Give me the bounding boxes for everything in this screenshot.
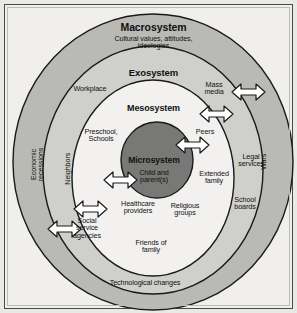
label-preschool-schools: Preschool, Schools (76, 128, 126, 143)
label-workplace: Workplace (59, 85, 121, 92)
label-economic-recessions: Economic recessions (30, 133, 45, 195)
exosystem-label: Exosystem (10, 68, 297, 78)
label-religious-groups: Religious groups (162, 202, 208, 217)
microsystem-sublabel: Child and parent(s) (111, 169, 197, 184)
label-wars: Wars (260, 136, 267, 188)
label-social-service-agencies: Social service agencies (64, 217, 110, 239)
microsystem-label: Microsystem (108, 156, 200, 165)
figure-frame: Macrosystem Cultural values, attitudes, … (4, 4, 293, 309)
diagram-stage: Macrosystem Cultural values, attitudes, … (10, 10, 297, 313)
label-friends-of-family: Friends of family (115, 239, 187, 254)
macrosystem-sublabel: Cultural values, attitudes, ideologies (10, 35, 297, 50)
ecological-systems-figure: Macrosystem Cultural values, attitudes, … (0, 0, 297, 313)
label-mass-media: Mass media (196, 81, 232, 96)
mesosystem-label: Mesosystem (10, 104, 297, 113)
macrosystem-label: Macrosystem (10, 22, 297, 33)
label-school-boards: School boards (224, 196, 266, 211)
label-technological-changes: Technological changes (60, 279, 230, 286)
label-peers: Peers (188, 128, 222, 135)
label-extended-family: Extended family (190, 170, 238, 185)
label-healthcare-providers: Healthcare providers (110, 200, 166, 215)
label-neighbors: Neighbors (64, 142, 71, 196)
